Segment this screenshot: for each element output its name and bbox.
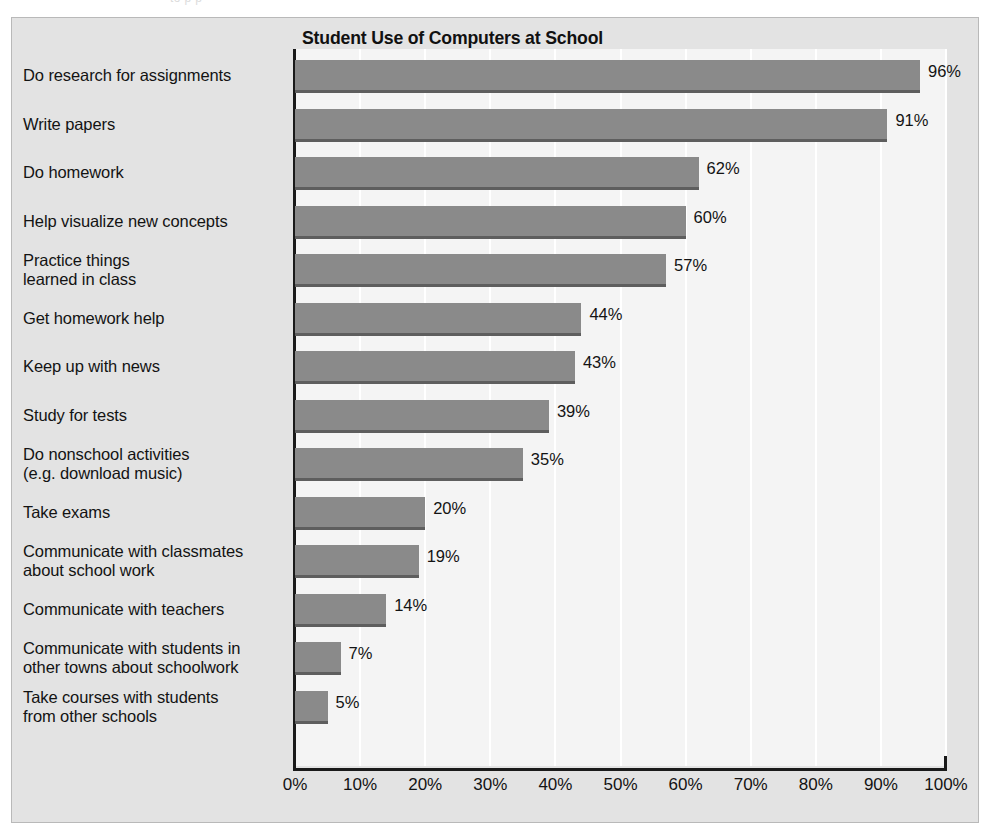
category-label: Communicate with students in other towns… xyxy=(23,639,281,677)
category-label: Keep up with news xyxy=(23,357,281,376)
bar xyxy=(295,545,419,578)
x-axis-tick-labels: 0%10%20%30%40%50%60%70%80%90%100% xyxy=(12,775,980,801)
x-tick-label: 20% xyxy=(408,775,442,795)
bar-value-label: 39% xyxy=(557,402,590,421)
category-label: Study for tests xyxy=(23,406,281,425)
chart-figure: to p p Student Use of Computers at Schoo… xyxy=(0,0,990,834)
bar xyxy=(295,351,575,384)
bar-row: Communicate with teachers14% xyxy=(12,588,980,632)
x-tick-label: 60% xyxy=(669,775,703,795)
bar-value-label: 96% xyxy=(928,62,961,81)
bar-value-label: 62% xyxy=(707,159,740,178)
bar-row: Do homework62% xyxy=(12,151,980,195)
bar-container xyxy=(295,545,419,578)
category-label: Do homework xyxy=(23,163,281,182)
bar xyxy=(295,497,425,530)
bar xyxy=(295,448,523,481)
category-label: Take exams xyxy=(23,503,281,522)
x-tick-label: 100% xyxy=(924,775,967,795)
bar-row: Keep up with news43% xyxy=(12,345,980,389)
category-label: Do nonschool activities (e.g. download m… xyxy=(23,445,281,483)
bar xyxy=(295,642,341,675)
cutoff-caption-strip: to p p xyxy=(0,0,990,16)
x-axis-line xyxy=(293,768,947,771)
bar-container xyxy=(295,206,686,239)
bar-value-label: 35% xyxy=(531,450,564,469)
bar-row: Communicate with students in other towns… xyxy=(12,636,980,680)
bar-container xyxy=(295,448,523,481)
bar-container xyxy=(295,400,549,433)
bar-row: Get homework help44% xyxy=(12,297,980,341)
x-tick-label: 70% xyxy=(734,775,768,795)
chart-title: Student Use of Computers at School xyxy=(302,27,603,49)
bar xyxy=(295,303,581,336)
bar-value-label: 14% xyxy=(394,596,427,615)
bar xyxy=(295,60,920,93)
bar xyxy=(295,109,887,142)
bar-row: Communicate with classmates about school… xyxy=(12,539,980,583)
x-tick-label: 0% xyxy=(283,775,308,795)
category-label: Help visualize new concepts xyxy=(23,212,281,231)
bar-value-label: 44% xyxy=(589,305,622,324)
bar-row: Help visualize new concepts60% xyxy=(12,200,980,244)
bar-container xyxy=(295,691,328,724)
bar-container xyxy=(295,594,386,627)
bar-container xyxy=(295,497,425,530)
category-label: Write papers xyxy=(23,115,281,134)
bar-container xyxy=(295,157,699,190)
category-label: Practice things learned in class xyxy=(23,251,281,289)
category-label: Communicate with teachers xyxy=(23,600,281,619)
bar-value-label: 57% xyxy=(674,256,707,275)
category-label: Do research for assignments xyxy=(23,66,281,85)
x-tick-label: 10% xyxy=(343,775,377,795)
x-tick-label: 90% xyxy=(864,775,898,795)
category-label: Get homework help xyxy=(23,309,281,328)
bar xyxy=(295,400,549,433)
bar-row: Take exams20% xyxy=(12,491,980,535)
bar-value-label: 5% xyxy=(336,693,360,712)
bar-row: Study for tests39% xyxy=(12,394,980,438)
bar xyxy=(295,594,386,627)
cutoff-caption-text: to p p xyxy=(170,0,202,5)
bar-value-label: 43% xyxy=(583,353,616,372)
x-tick-label: 40% xyxy=(538,775,572,795)
bar-row: Do research for assignments96% xyxy=(12,54,980,98)
bar-value-label: 7% xyxy=(349,644,373,663)
bar-value-label: 19% xyxy=(427,547,460,566)
x-tick-label: 50% xyxy=(603,775,637,795)
bar-container xyxy=(295,642,341,675)
category-label: Communicate with classmates about school… xyxy=(23,542,281,580)
category-label: Take courses with students from other sc… xyxy=(23,688,281,726)
bar-rows: Do research for assignments96%Write pape… xyxy=(12,49,980,766)
bar-container xyxy=(295,109,887,142)
bar-row: Do nonschool activities (e.g. download m… xyxy=(12,442,980,486)
bar-container xyxy=(295,351,575,384)
bar-value-label: 91% xyxy=(895,111,928,130)
bar-container xyxy=(295,254,666,287)
bar xyxy=(295,691,328,724)
bar xyxy=(295,157,699,190)
bar xyxy=(295,206,686,239)
bar-row: Practice things learned in class57% xyxy=(12,248,980,292)
bar-container xyxy=(295,303,581,336)
chart-panel: Student Use of Computers at School Do re… xyxy=(11,17,979,823)
bar-container xyxy=(295,60,920,93)
bar xyxy=(295,254,666,287)
bar-row: Take courses with students from other sc… xyxy=(12,685,980,729)
bar-value-label: 20% xyxy=(433,499,466,518)
x-tick-label: 80% xyxy=(799,775,833,795)
bar-value-label: 60% xyxy=(694,208,727,227)
bar-row: Write papers91% xyxy=(12,103,980,147)
x-tick-label: 30% xyxy=(473,775,507,795)
